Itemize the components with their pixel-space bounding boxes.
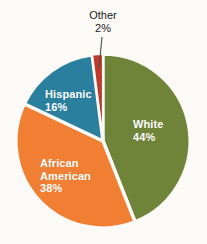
pie-label-white: White 44% — [133, 118, 163, 143]
pie-chart: White 44% African American 38% Hispanic … — [0, 0, 207, 244]
pie-label-african-american: African American 38% — [40, 157, 91, 195]
pie-label-other: Other 2% — [74, 9, 132, 35]
pie-label-hispanic: Hispanic 16% — [45, 88, 92, 113]
pie-slices — [16, 54, 190, 228]
pie-chart-canvas — [0, 0, 207, 244]
